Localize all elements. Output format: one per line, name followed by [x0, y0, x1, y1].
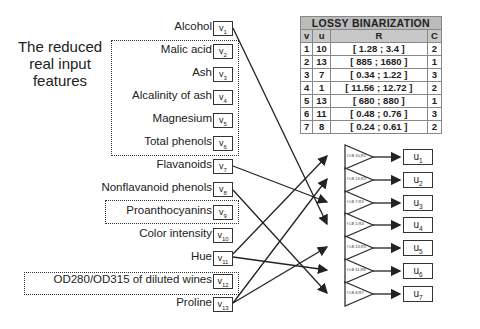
table-row: 611[ 0.48 ; 0.76 ]3: [301, 108, 442, 121]
output-box-u7: u7: [403, 286, 433, 302]
var-box-v4: v4: [213, 90, 233, 105]
feature-label-malic-acid: Malic acid: [161, 43, 212, 55]
feature-label-nonflavanoid-phenols: Nonflavanoid phenols: [101, 181, 212, 193]
table-title: LOSSY BINARIZATION: [301, 17, 442, 30]
table-header-r: R: [330, 30, 427, 43]
var-box-v13: v13: [213, 297, 233, 312]
var-box-v3: v3: [213, 67, 233, 82]
output-box-u4: u4: [403, 217, 433, 233]
table-row: 78[ 0.24 ; 0.61 ]2: [301, 121, 442, 134]
feature-label-hue: Hue: [191, 250, 212, 262]
feature-label-alcohol: Alcohol: [174, 20, 212, 32]
binarizer-label-4: f LB 1,R4: [347, 222, 364, 226]
var-box-v2: v2: [213, 44, 233, 59]
var-box-v10: v10: [213, 228, 233, 243]
feature-label-od280-od315: OD280/OD315 of diluted wines: [53, 273, 212, 285]
binarizer-label-2: f LB 13,R2: [347, 177, 366, 181]
binarizer-label-6: f LB 11,R6: [347, 268, 366, 272]
feature-label-color-intensity: Color intensity: [139, 227, 212, 239]
binarizer-label-5: f LB 13,R5: [347, 245, 366, 249]
table-row: 213[ 885 ; 1680 ]1: [301, 56, 442, 69]
feature-label-alcalinity-of-ash: Alcalinity of ash: [132, 89, 212, 101]
output-box-u1: u1: [403, 149, 433, 165]
table-row: 41[ 11.56 ; 12.72 ]2: [301, 82, 442, 95]
binarizer-label-3: f LB 7,R3: [347, 200, 364, 204]
table-row: 110[ 1.28 ; 3.4 ]2: [301, 43, 442, 56]
var-box-v1: v1: [213, 21, 233, 36]
var-box-v11: v11: [213, 251, 233, 266]
output-box-u5: u5: [403, 240, 433, 256]
feature-label-magnesium: Magnesium: [153, 112, 212, 124]
binarizer-label-1: f LB 10,R1: [347, 154, 366, 158]
var-box-v6: v6: [213, 136, 233, 151]
binarizer-label-7: f LB 8,R7: [347, 291, 364, 295]
feature-label-ash: Ash: [192, 66, 212, 78]
feature-label-proline: Proline: [176, 296, 212, 308]
var-box-v8: v8: [213, 182, 233, 197]
feature-label-flavanoids: Flavanoids: [156, 158, 212, 170]
feature-label-total-phenols: Total phenols: [144, 135, 212, 147]
table-header-v: v: [301, 30, 313, 43]
table-row: 37[ 0.34 ; 1.22 ]3: [301, 69, 442, 82]
output-box-u2: u2: [403, 172, 433, 188]
output-box-u3: u3: [403, 195, 433, 211]
table-header-u: u: [313, 30, 331, 43]
var-box-v5: v5: [213, 113, 233, 128]
feature-label-proanthocyanins: Proanthocyanins: [126, 204, 212, 216]
output-box-u6: u6: [403, 263, 433, 279]
var-box-v12: v12: [213, 274, 233, 289]
table-row: 513[ 680 ; 880 ]1: [301, 95, 442, 108]
var-box-v7: v7: [213, 159, 233, 174]
lossy-binarization-table: LOSSY BINARIZATION v u R C 110[ 1.28 ; 3…: [300, 16, 442, 134]
table-header-c: C: [427, 30, 441, 43]
var-box-v9: v9: [213, 205, 233, 220]
